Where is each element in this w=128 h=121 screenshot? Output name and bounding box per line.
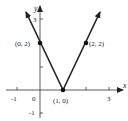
x-tick-label-3: 3 [107, 95, 111, 103]
left-branch [26, 12, 63, 90]
point-label-1-0: (1, 0) [53, 97, 69, 105]
right-branch [63, 12, 100, 90]
x-axis-label: x [122, 81, 127, 90]
graph: y x 3 -1 -1 0 3 (0, 2) (1, 0) (2, 2) [0, 0, 128, 121]
point-label-0-2: (0, 2) [15, 40, 31, 48]
point-label-2-2: (2, 2) [89, 40, 105, 48]
y-tick-label-3: 3 [33, 16, 37, 24]
point-0-2 [38, 41, 43, 46]
point-1-0 [61, 88, 66, 93]
origin-label: 0 [32, 95, 36, 103]
y-axis-label: y [33, 4, 38, 13]
y-tick-label-neg1: -1 [29, 109, 35, 117]
point-2-2 [84, 41, 89, 46]
x-tick-label-neg1: -1 [11, 95, 17, 103]
